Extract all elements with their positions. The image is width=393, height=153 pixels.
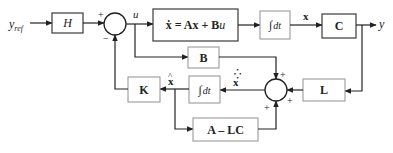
- signal-u-label: u: [133, 8, 139, 20]
- sum2-sign-bottom: +: [264, 102, 270, 113]
- block-integrator-bottom-label: ∫dt: [197, 83, 210, 97]
- block-plant-label: ẋ = Ax + Bu: [166, 18, 226, 32]
- sum1-sign-plus: +: [98, 9, 104, 20]
- block-h-label: H: [62, 16, 73, 30]
- signal-x-label: x: [303, 10, 309, 22]
- signal-xhat-dot-accent: ⁛: [234, 69, 241, 79]
- sum2-sign-top: +: [280, 69, 286, 80]
- input-label-yref: yref: [8, 17, 25, 33]
- block-diagram: yref H + − u ẋ = Ax + Bu ∫dt x C y L B +…: [0, 0, 393, 153]
- block-a-minus-lc-label: A – LC: [207, 123, 244, 137]
- block-integrator-top-label: ∫dt: [268, 18, 281, 32]
- output-label-y: y: [378, 17, 385, 31]
- wire-k-to-sum1: [115, 35, 128, 89]
- wire-b-to-sum2: [219, 57, 276, 79]
- block-b-label: B: [199, 51, 207, 65]
- summing-junction-1: [104, 13, 126, 35]
- block-k-label: K: [139, 83, 149, 97]
- sum2-sign-right: +: [287, 95, 293, 106]
- summing-junction-2: [265, 79, 287, 101]
- block-c-label: C: [335, 19, 344, 33]
- block-l-label: L: [320, 83, 328, 97]
- sum1-sign-minus: −: [103, 33, 109, 44]
